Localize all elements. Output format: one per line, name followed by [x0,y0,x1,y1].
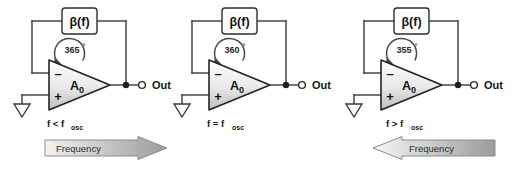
circuit-at-resonance: β(f) 360 ° – + A 0 Out f = f osc [176,0,352,171]
phase-value-label: 365 [64,45,79,55]
amplifier-gain-label: A [402,79,411,93]
output-label: Out [312,79,331,91]
open-terminal-icon [299,82,306,89]
inverting-input-sign: – [54,66,61,81]
frequency-banner-increasing: Frequency [44,136,170,166]
phase-value-label: 355 [396,45,411,55]
phase-degree-symbol: ° [243,43,246,50]
oscillator-phase-diagram: β(f) 365 ° – + A 0 Out f < f osc [0,0,530,171]
noninverting-input-sign: + [54,89,62,104]
feedback-block-label: β(f) [401,15,421,29]
frequency-condition-label: f > f [386,118,404,129]
ground-symbol [14,104,30,117]
feedback-block-label: β(f) [229,15,249,29]
inverting-input-sign: – [214,66,221,81]
open-terminal-icon [471,82,478,89]
amplifier-gain-subscript: 0 [239,85,244,95]
output-label: Out [152,79,171,91]
frequency-condition-subscript: osc [411,124,423,131]
amplifier-gain-subscript: 0 [411,85,416,95]
frequency-condition-subscript: osc [232,124,244,131]
junction-dot-icon [123,82,129,88]
frequency-condition-subscript: osc [71,124,83,131]
amplifier-gain-label: A [230,79,239,93]
phase-degree-symbol: ° [415,43,418,50]
ground-symbol [174,104,190,117]
frequency-banner-decreasing: Frequency [371,136,497,166]
amplifier-gain-subscript: 0 [79,85,84,95]
open-terminal-icon [139,82,146,89]
phase-degree-symbol: ° [83,43,86,50]
output-label: Out [484,79,503,91]
noninverting-input-sign: + [386,89,394,104]
frequency-condition-label: f < f [47,118,65,129]
junction-dot-icon [283,82,289,88]
phase-value-label: 360 [224,45,239,55]
feedback-block-label: β(f) [69,15,89,29]
junction-dot-icon [455,82,461,88]
frequency-banner-label: Frequency [409,143,454,154]
inverting-input-sign: – [386,66,393,81]
amplifier-gain-label: A [70,79,79,93]
frequency-condition-label: f = f [207,118,225,129]
noninverting-input-sign: + [214,89,222,104]
frequency-banner-label: Frequency [56,143,101,154]
